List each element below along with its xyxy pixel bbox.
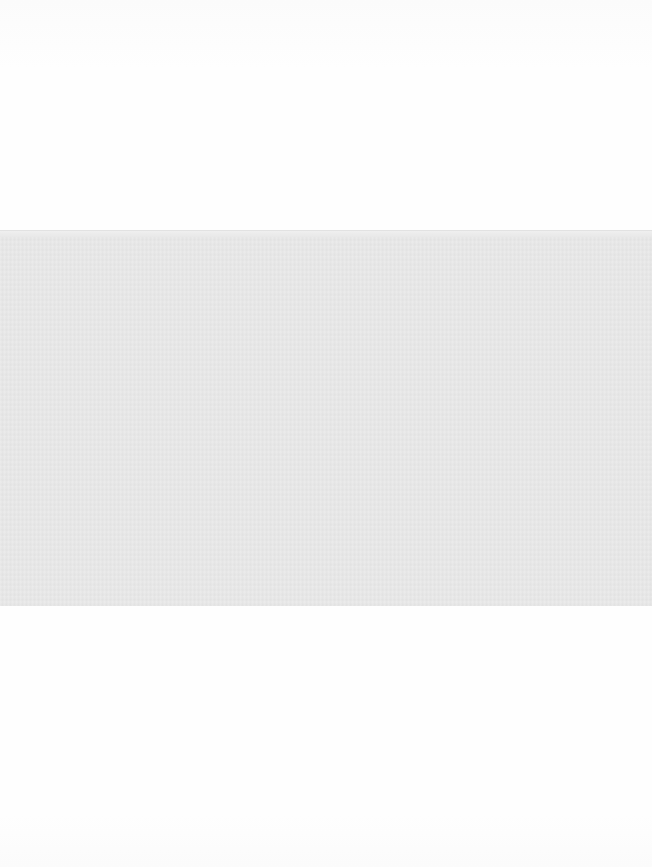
- block-top-edge: [0, 231, 652, 237]
- gray-image-block: [0, 230, 652, 607]
- document-page: [0, 0, 652, 867]
- bottom-blank-margin: [0, 606, 652, 867]
- top-blank-margin: [0, 0, 652, 230]
